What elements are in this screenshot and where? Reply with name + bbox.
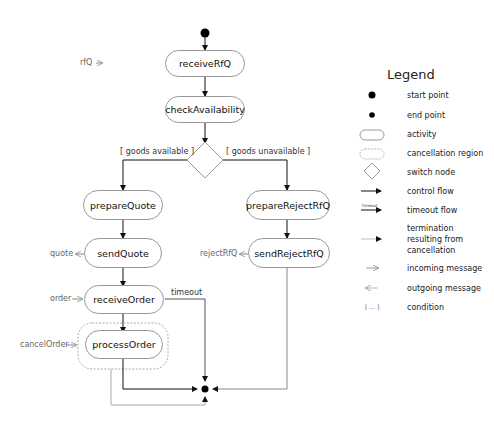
condition-icon: [ ... ]: [365, 303, 379, 310]
timeout-label: timeout: [171, 288, 202, 297]
activity-receive-rfq: receiveRfQ: [165, 50, 245, 77]
activity-send-reject-rfq: sendRejectRfQ: [248, 238, 330, 268]
legend-label: control flow: [407, 186, 454, 197]
switch-node-icon: [364, 163, 380, 179]
message-quote: quote: [50, 249, 73, 258]
legend-label: end point: [407, 110, 445, 121]
activity-icon: [360, 130, 384, 140]
legend-label: incoming message: [407, 263, 482, 274]
message-order: order: [50, 294, 71, 303]
cancellation-region-icon: [360, 149, 384, 159]
end-point-icon: [369, 112, 375, 118]
activity-prepare-quote: prepareQuote: [83, 190, 163, 220]
legend-label: activity: [407, 129, 437, 140]
legend-label: termination resulting from cancellation: [407, 223, 477, 256]
legend-label: timeout flow: [407, 205, 457, 216]
condition-goods-unavailable: [ goods unavailable ]: [226, 147, 310, 156]
message-cancel-order: cancelOrder: [20, 340, 69, 349]
timeout-flow-icon-label: timeout: [362, 203, 378, 208]
legend-label: switch node: [407, 167, 455, 178]
start-point-icon: [369, 92, 376, 99]
activity-receive-order: receiveOrder: [84, 285, 164, 314]
activity-process-order: processOrder: [85, 330, 163, 359]
legend-label: cancellation region: [407, 148, 483, 159]
end-point-icon: [202, 386, 209, 393]
message-reject-rfq: rejectRfQ: [200, 249, 237, 258]
legend-label: outgoing message: [407, 283, 481, 294]
start-point-icon: [201, 29, 210, 38]
activity-check-availability: checkAvailability: [165, 96, 245, 123]
legend-title: Legend: [387, 67, 435, 82]
activity-send-quote: sendQuote: [84, 238, 162, 268]
condition-goods-available: [ goods available ]: [120, 147, 194, 156]
legend-label: start point: [407, 90, 449, 101]
message-rfq: rfQ: [80, 58, 92, 67]
legend-label: condition: [407, 302, 444, 313]
activity-prepare-reject-rfq: prepareRejectRfQ: [246, 190, 330, 220]
